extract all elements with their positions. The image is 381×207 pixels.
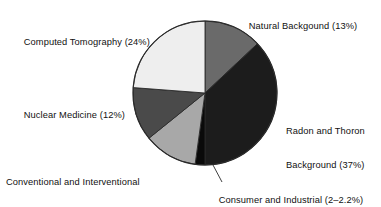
slice-label-consumer-industrial: Consumer and Industrial (2–2.2%) xyxy=(208,184,363,207)
consumer-industrial-leader-line xyxy=(213,165,222,182)
slice-label-natural-background: Natural Backgound (13%) xyxy=(238,10,357,44)
slice-label-conventional-radiography: Conventional and Interventional Radiogra… xyxy=(6,154,160,207)
slice-label-conventional-radiography-line1: Conventional and Interventional xyxy=(6,177,160,188)
slice-label-radon-thoron-line1: Radon and Thoron xyxy=(286,126,365,137)
pie-chart-figure: Natural Backgound (13%) Radon and Thoron… xyxy=(0,0,381,207)
slice-label-computed-tomography: Computed Tomography (24%) xyxy=(13,26,150,60)
slice-label-computed-tomography-text: Computed Tomography (24%) xyxy=(24,37,150,47)
slice-label-nuclear-medicine-text: Nuclear Medicine (12%) xyxy=(24,110,125,120)
slice-label-radon-thoron-line2: Background (37%) xyxy=(286,160,365,171)
slice-label-radon-thoron-background: Radon and Thoron Background (37%) xyxy=(286,103,365,194)
slice-label-nuclear-medicine: Nuclear Medicine (12%) xyxy=(13,99,125,133)
slice-label-natural-background-text: Natural Backgound (13%) xyxy=(249,21,358,31)
slice-label-consumer-industrial-text: Consumer and Industrial (2–2.2%) xyxy=(219,195,364,205)
